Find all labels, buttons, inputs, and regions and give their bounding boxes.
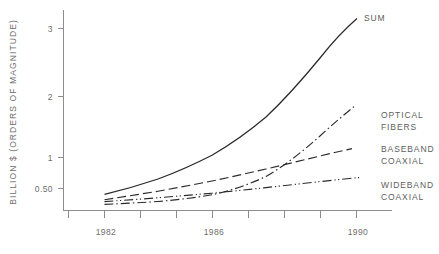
y-tick-label-3: 3 <box>48 24 53 34</box>
series-label-optical-fibers-line2: FIBERS <box>381 122 417 132</box>
y-axis-ticks <box>58 29 64 189</box>
series-line-optical-fibers <box>105 105 357 204</box>
x-tick-label-1986: 1986 <box>204 227 225 237</box>
series-label-baseband-coaxial-line1: BASEBAND <box>381 144 435 154</box>
y-axis-title: BILLION $ (ORDERS OF MAGNITUDE) <box>8 19 18 205</box>
x-axis-ticks <box>69 211 357 219</box>
series-label-sum: SUM <box>364 13 386 23</box>
chart-figure: 3 2 1 0.50 BILLION $ (ORDERS OF MAGNITUD… <box>0 0 439 254</box>
x-tick-label-1982: 1982 <box>96 227 117 237</box>
y-tick-label-2: 2 <box>48 92 53 102</box>
y-tick-label-1: 1 <box>48 153 53 163</box>
series-label-baseband-coaxial-line2: COAXIAL <box>381 156 424 166</box>
series-label-wideband-coaxial-line2: COAXIAL <box>381 192 424 202</box>
series-label-wideband-coaxial-line1: WIDEBAND <box>381 180 434 190</box>
series-label-optical-fibers-line1: OPTICAL <box>381 110 424 120</box>
series-line-sum <box>105 19 358 195</box>
y-tick-label-0-50: 0.50 <box>35 184 53 194</box>
line-chart: 3 2 1 0.50 BILLION $ (ORDERS OF MAGNITUD… <box>0 0 439 254</box>
x-tick-label-1990: 1990 <box>348 227 369 237</box>
